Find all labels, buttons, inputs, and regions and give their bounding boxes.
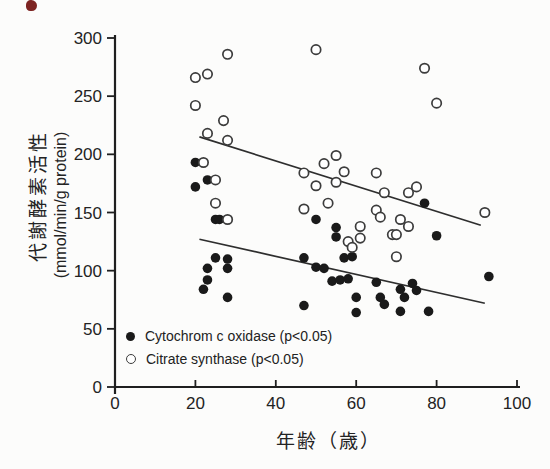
data-point (331, 178, 340, 187)
data-point (191, 101, 200, 110)
x-tick-label: 40 (266, 394, 285, 413)
open-circle-marker-icon (126, 354, 136, 364)
data-point (223, 136, 232, 145)
data-point (424, 307, 434, 317)
data-point (392, 230, 401, 239)
data-point (299, 168, 308, 177)
data-point (484, 272, 494, 282)
legend-item-citrate-synthase: Citrate synthase (p<0.05) (126, 351, 332, 367)
y-tick-label: 100 (74, 262, 102, 281)
data-point (335, 275, 345, 285)
y-tick-label: 200 (74, 145, 102, 164)
y-tick-label: 250 (74, 87, 102, 106)
data-point (400, 293, 410, 303)
data-point (343, 274, 353, 284)
x-tick-label: 20 (186, 394, 205, 413)
data-point (203, 264, 213, 274)
data-point (311, 215, 321, 225)
x-tick-label: 100 (503, 394, 531, 413)
data-point (223, 215, 232, 224)
data-point (432, 98, 441, 107)
trend-line-0 (199, 239, 484, 303)
legend-label-cytochrom: Cytochrom c oxidase (p<0.05) (145, 328, 332, 344)
plot-area: 050100150200250300020406080100 (0, 0, 550, 469)
legend-label-citrate: Citrate synthase (p<0.05) (146, 351, 304, 367)
data-point (223, 293, 233, 303)
data-point (331, 151, 340, 160)
y-tick-label: 0 (93, 378, 102, 397)
data-point (223, 264, 233, 274)
data-point (380, 188, 389, 197)
data-point (380, 300, 390, 310)
data-point (223, 254, 233, 264)
legend-item-cytochrom-c-oxidase: Cytochrom c oxidase (p<0.05) (126, 328, 332, 344)
data-point (323, 198, 332, 207)
data-point (199, 284, 209, 294)
data-point (211, 253, 221, 263)
y-tick-label: 150 (74, 204, 102, 223)
data-point (299, 301, 309, 311)
data-point (420, 198, 430, 208)
data-point (372, 278, 382, 288)
data-point (311, 45, 320, 54)
data-point (331, 232, 341, 242)
data-point (191, 73, 200, 82)
data-point (351, 293, 361, 303)
data-point (203, 129, 212, 138)
data-point (432, 231, 442, 241)
data-point (404, 222, 413, 231)
data-point (203, 69, 212, 78)
scatter-chart-figure: 代謝酵素活性 (mmol/min/g protein) 050100150200… (0, 0, 550, 469)
data-point (412, 286, 422, 296)
data-point (339, 253, 349, 263)
data-point (356, 222, 365, 231)
y-tick-label: 300 (74, 29, 102, 48)
data-point (420, 64, 429, 73)
data-point (396, 215, 405, 224)
data-point (319, 264, 329, 274)
data-point (199, 158, 208, 167)
data-point (223, 50, 232, 59)
filled-circle-marker-icon (126, 332, 135, 341)
y-tick-label: 50 (83, 320, 102, 339)
data-point (356, 233, 365, 242)
data-point (327, 276, 337, 286)
data-point (219, 116, 228, 125)
data-point (480, 208, 489, 217)
data-point (412, 182, 421, 191)
x-axis-ticks: 020406080100 (110, 380, 531, 413)
y-axis-ticks: 050100150200250300 (74, 29, 115, 397)
data-point (347, 252, 357, 262)
data-point (299, 253, 309, 263)
data-point (339, 167, 348, 176)
data-point (376, 212, 385, 221)
data-point (299, 204, 308, 213)
data-point (347, 243, 356, 252)
data-point (211, 198, 220, 207)
x-axis-title: 年齢（歳） (276, 426, 381, 453)
legend: Cytochrom c oxidase (p<0.05) Citrate syn… (126, 328, 332, 374)
data-point (211, 175, 220, 184)
data-point (331, 223, 341, 233)
data-point (396, 284, 406, 294)
x-tick-label: 80 (427, 394, 446, 413)
data-point (311, 181, 320, 190)
data-point (372, 168, 381, 177)
data-point (203, 275, 213, 285)
data-point (351, 308, 361, 318)
x-tick-label: 60 (347, 394, 366, 413)
data-point (396, 307, 406, 317)
data-point (319, 159, 328, 168)
data-point (311, 262, 321, 272)
x-tick-label: 0 (110, 394, 119, 413)
data-point (191, 182, 201, 192)
data-point (392, 252, 401, 261)
